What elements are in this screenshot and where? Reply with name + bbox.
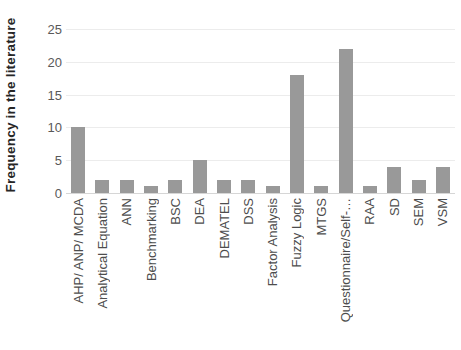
bar-vsm	[436, 167, 450, 193]
y-tick-label: 10	[48, 120, 62, 135]
bar-cell	[212, 29, 236, 193]
plot-area	[66, 29, 455, 193]
x-label-cell: SD	[382, 198, 406, 348]
x-axis-line	[66, 193, 455, 194]
bar-cell	[90, 29, 114, 193]
bar-cell	[115, 29, 139, 193]
category-label: RAA	[363, 198, 376, 225]
bar-dea	[193, 160, 207, 193]
category-label: VSM	[436, 198, 449, 226]
bar-questionnaire-self	[339, 49, 353, 193]
x-label-cell: ANN	[115, 198, 139, 348]
category-label: AHP/ ANP/ MCDA	[72, 198, 85, 303]
bar-cell	[358, 29, 382, 193]
category-label: MTGS	[315, 198, 328, 236]
category-label: SEM	[412, 198, 425, 226]
category-label: BSC	[169, 198, 182, 225]
x-label-cell: DSS	[236, 198, 260, 348]
x-label-cell: MTGS	[309, 198, 333, 348]
bar-cell	[66, 29, 90, 193]
bar-benchmarking	[144, 186, 158, 193]
x-axis-labels: AHP/ ANP/ MCDAAnalytical EquationANNBenc…	[66, 198, 455, 348]
bar-factor-analysis	[266, 186, 280, 193]
category-label: ANN	[120, 198, 133, 225]
y-tick-label: 0	[55, 186, 62, 201]
bar-bsc	[168, 180, 182, 193]
x-label-cell: Questionnaire/Self-…	[333, 198, 357, 348]
y-tick-label: 15	[48, 87, 62, 102]
category-label: DEA	[193, 198, 206, 225]
bars-row	[66, 29, 455, 193]
bar-cell	[333, 29, 357, 193]
x-label-cell: AHP/ ANP/ MCDA	[66, 198, 90, 348]
bar-chart: Frequency in the literature 0510152025 A…	[0, 0, 461, 350]
bar-cell	[139, 29, 163, 193]
y-axis-title: Frequency in the literature	[3, 18, 18, 193]
x-label-cell: Analytical Equation	[90, 198, 114, 348]
bar-cell	[382, 29, 406, 193]
bar-cell	[261, 29, 285, 193]
category-label: SD	[388, 198, 401, 216]
bar-ann	[120, 180, 134, 193]
category-label: Benchmarking	[145, 198, 158, 281]
bar-raa	[363, 186, 377, 193]
category-label: DEMATEL	[218, 198, 231, 258]
y-tick-label: 5	[55, 153, 62, 168]
bar-fuzzy-logic	[290, 75, 304, 193]
bar-dematel	[217, 180, 231, 193]
x-label-cell: VSM	[431, 198, 455, 348]
bar-cell	[188, 29, 212, 193]
category-label: Factor Analysis	[266, 198, 279, 286]
bar-cell	[431, 29, 455, 193]
x-label-cell: BSC	[163, 198, 187, 348]
x-label-cell: RAA	[358, 198, 382, 348]
bar-dss	[241, 180, 255, 193]
bar-mtgs	[314, 186, 328, 193]
bar-analytical-equation	[95, 180, 109, 193]
x-label-cell: Fuzzy Logic	[285, 198, 309, 348]
bar-ahp-anp-mcda	[71, 127, 85, 193]
bar-cell	[309, 29, 333, 193]
x-label-cell: DEA	[188, 198, 212, 348]
bar-sem	[412, 180, 426, 193]
y-tick-label: 25	[48, 22, 62, 37]
category-label: Analytical Equation	[96, 198, 109, 309]
category-label: Questionnaire/Self-…	[339, 198, 352, 322]
y-tick-label: 20	[48, 54, 62, 69]
category-label: Fuzzy Logic	[290, 198, 303, 267]
bar-cell	[236, 29, 260, 193]
x-label-cell: SEM	[406, 198, 430, 348]
bar-cell	[406, 29, 430, 193]
bar-cell	[163, 29, 187, 193]
x-label-cell: DEMATEL	[212, 198, 236, 348]
category-label: DSS	[242, 198, 255, 225]
bar-sd	[387, 167, 401, 193]
bar-cell	[285, 29, 309, 193]
x-label-cell: Benchmarking	[139, 198, 163, 348]
x-label-cell: Factor Analysis	[261, 198, 285, 348]
